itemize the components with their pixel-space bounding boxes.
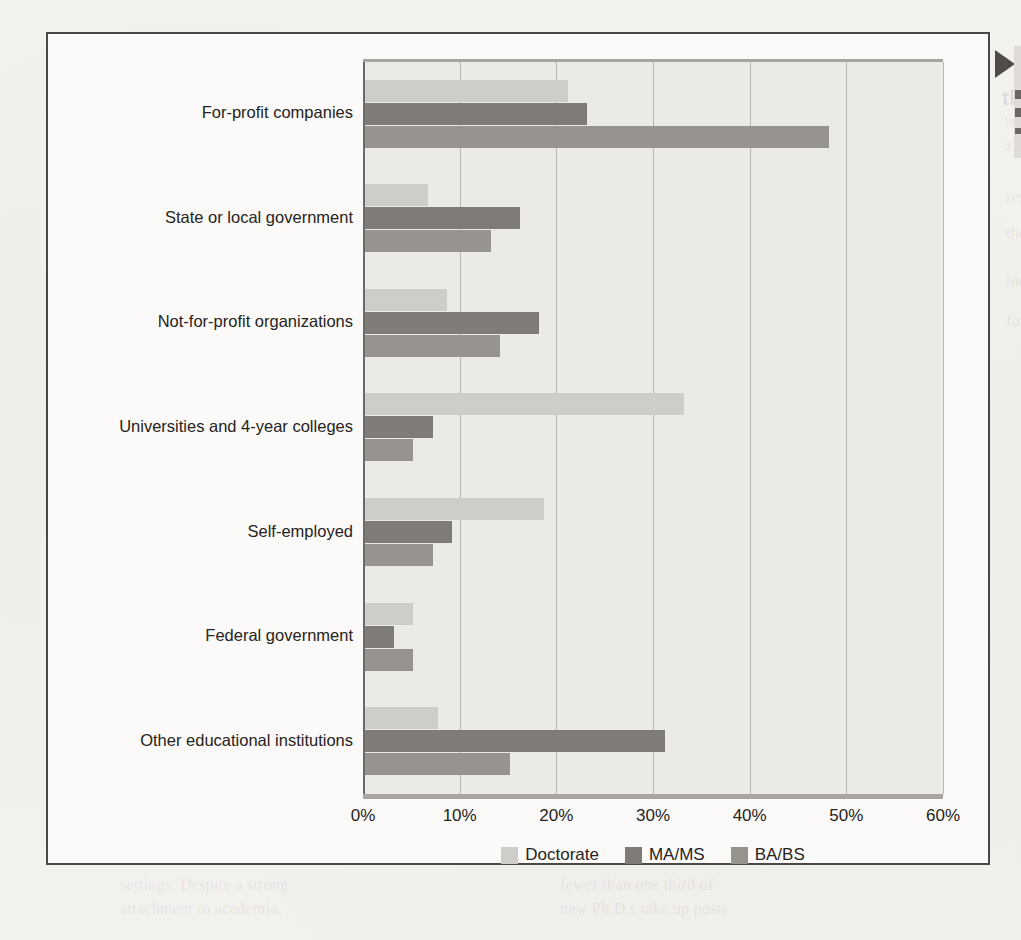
callout-panel (1014, 46, 1021, 158)
bar-group (363, 689, 943, 794)
bar-row (363, 312, 943, 334)
x-tick-label: 50% (829, 806, 863, 826)
bar-ma-ms (365, 626, 394, 648)
bar-ba-bs (365, 649, 413, 671)
bar-doctorate (365, 184, 428, 206)
plot-bottom-rule (363, 794, 943, 799)
bar-group (363, 585, 943, 690)
category-label: Not-for-profit organizations (53, 312, 353, 331)
x-tick-label: 40% (733, 806, 767, 826)
bar-row (363, 603, 943, 625)
margin-callout (995, 46, 1021, 164)
plot-area (363, 62, 943, 794)
bar-doctorate (365, 393, 684, 415)
bar-row (363, 707, 943, 729)
bar-ba-bs (365, 335, 500, 357)
bar-row (363, 649, 943, 671)
bar-row (363, 289, 943, 311)
legend-item: BA/BS (731, 845, 805, 865)
bar-row (363, 393, 943, 415)
bar-row (363, 80, 943, 102)
bar-ba-bs (365, 544, 433, 566)
bar-row (363, 103, 943, 125)
bar-ma-ms (365, 521, 452, 543)
bar-row (363, 416, 943, 438)
bar-doctorate (365, 498, 544, 520)
legend-swatch (625, 847, 642, 864)
legend-item: Doctorate (501, 845, 599, 865)
callout-text-line (1015, 128, 1021, 134)
x-tick-label: 60% (926, 806, 960, 826)
bar-ma-ms (365, 416, 433, 438)
bar-doctorate (365, 289, 447, 311)
x-tick-label: 20% (539, 806, 573, 826)
legend-label: Doctorate (525, 845, 599, 865)
triangle-pointer-icon (995, 50, 1015, 78)
bar-ma-ms (365, 730, 665, 752)
bar-doctorate (365, 707, 438, 729)
bar-row (363, 207, 943, 229)
callout-text-line (1015, 108, 1021, 117)
bar-row (363, 439, 943, 461)
bar-row (363, 184, 943, 206)
bar-row (363, 126, 943, 148)
bar-ba-bs (365, 439, 413, 461)
bar-group (363, 480, 943, 585)
bar-group (363, 271, 943, 376)
gridline (943, 62, 944, 794)
bar-group (363, 376, 943, 481)
legend-label: MA/MS (649, 845, 705, 865)
category-label: Universities and 4-year colleges (53, 417, 353, 436)
bar-ma-ms (365, 207, 520, 229)
bar-row (363, 498, 943, 520)
category-labels: For-profit companiesState or local gover… (48, 62, 353, 794)
category-label: State or local government (53, 208, 353, 227)
chart-legend: DoctorateMA/MSBA/BS (363, 842, 943, 868)
category-label: For-profit companies (53, 103, 353, 122)
legend-item: MA/MS (625, 845, 705, 865)
bar-row (363, 730, 943, 752)
bar-row (363, 230, 943, 252)
legend-swatch (501, 847, 518, 864)
bar-ba-bs (365, 230, 491, 252)
x-tick-label: 30% (636, 806, 670, 826)
x-tick-label: 0% (351, 806, 376, 826)
bar-row (363, 544, 943, 566)
category-label: Other educational institutions (53, 731, 353, 750)
bar-row (363, 521, 943, 543)
legend-swatch (731, 847, 748, 864)
bar-ma-ms (365, 312, 539, 334)
x-axis-tick-labels: 0%10%20%30%40%50%60% (363, 806, 943, 832)
bar-group (363, 62, 943, 167)
figure-container: For-profit companiesState or local gover… (46, 32, 990, 865)
bar-row (363, 335, 943, 357)
bar-doctorate (365, 80, 568, 102)
bar-ma-ms (365, 103, 587, 125)
bar-ba-bs (365, 753, 510, 775)
bar-row (363, 753, 943, 775)
category-label: Self-employed (53, 522, 353, 541)
callout-text-line (1015, 90, 1021, 99)
bar-doctorate (365, 603, 413, 625)
category-label: Federal government (53, 626, 353, 645)
x-tick-label: 10% (443, 806, 477, 826)
bar-ba-bs (365, 126, 829, 148)
legend-label: BA/BS (755, 845, 805, 865)
bar-chart: For-profit companiesState or local gover… (48, 34, 988, 863)
bar-row (363, 626, 943, 648)
bar-group (363, 167, 943, 272)
